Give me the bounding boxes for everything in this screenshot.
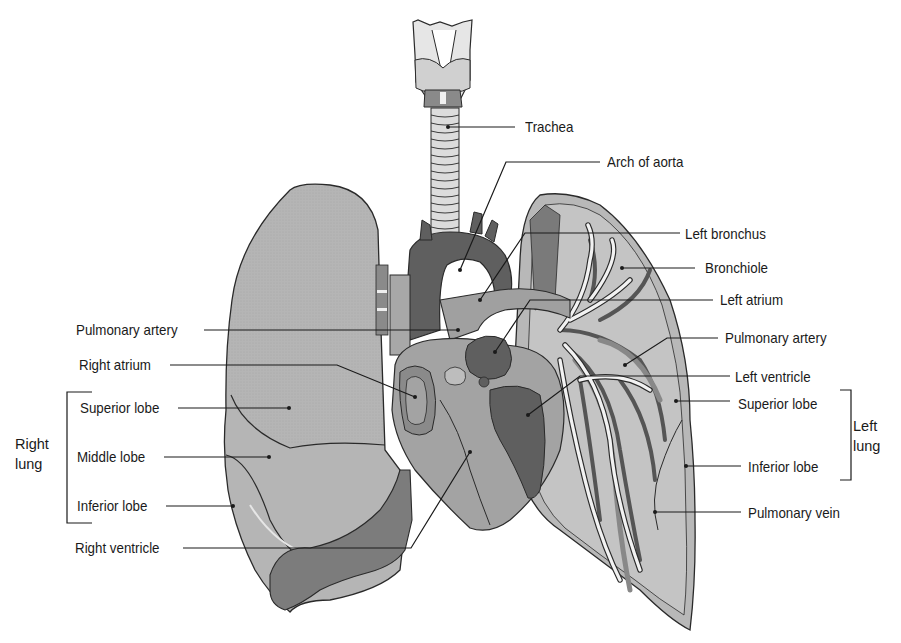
label-superior-lobe-left: Superior lobe — [738, 396, 817, 412]
group-label-left-line2: lung — [853, 436, 880, 456]
group-label-right-line1: Right — [15, 434, 49, 454]
label-trachea: Trachea — [525, 119, 573, 135]
label-arch-of-aorta: Arch of aorta — [607, 154, 683, 170]
label-inferior-lobe-left: Inferior lobe — [748, 459, 818, 475]
anatomy-diagram: Pulmonary artery Right atrium Superior l… — [0, 0, 901, 643]
label-left-atrium: Left atrium — [720, 292, 783, 308]
group-label-left-lung: Left lung — [853, 416, 880, 456]
label-pulmonary-artery-left: Pulmonary artery — [76, 322, 178, 338]
larynx — [413, 20, 472, 107]
label-bronchiole: Bronchiole — [705, 260, 768, 276]
label-left-bronchus: Left bronchus — [685, 226, 766, 242]
group-label-left-line1: Left — [853, 416, 880, 436]
label-left-ventricle: Left ventricle — [735, 369, 811, 385]
label-middle-lobe: Middle lobe — [77, 449, 145, 465]
label-superior-lobe-right: Superior lobe — [80, 400, 159, 416]
group-label-right-line2: lung — [15, 454, 49, 474]
label-right-atrium: Right atrium — [79, 357, 151, 373]
label-right-ventricle: Right ventricle — [75, 540, 160, 556]
label-pulmonary-artery-right: Pulmonary artery — [725, 330, 827, 346]
group-label-right-lung: Right lung — [15, 434, 49, 474]
label-pulmonary-vein: Pulmonary vein — [748, 505, 840, 521]
label-inferior-lobe-right: Inferior lobe — [77, 498, 147, 514]
